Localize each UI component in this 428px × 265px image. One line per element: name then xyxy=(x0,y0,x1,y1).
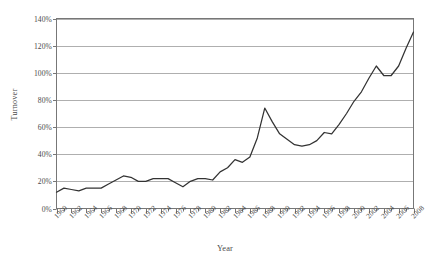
y-tick-label-40: 40% xyxy=(14,150,52,159)
gridlines xyxy=(57,20,414,182)
y-tick-label-60: 60% xyxy=(14,123,52,132)
turnover-data-line xyxy=(57,32,414,192)
turnover-line-chart: 0%20%40%60%80%100%120%140% 1960196219641… xyxy=(0,0,428,265)
plot-area xyxy=(0,0,428,265)
y-axis-ticks xyxy=(53,20,57,210)
plot-frame xyxy=(57,19,414,209)
x-axis-title: Year xyxy=(0,244,428,253)
y-axis-title: Turnover xyxy=(10,75,19,135)
y-tick-label-20: 20% xyxy=(14,177,52,186)
y-tick-label-100: 100% xyxy=(14,68,52,77)
y-tick-label-0: 0% xyxy=(14,204,52,213)
y-tick-label-140: 140% xyxy=(14,14,52,23)
y-tick-label-120: 120% xyxy=(14,41,52,50)
y-tick-label-80: 80% xyxy=(14,95,52,104)
